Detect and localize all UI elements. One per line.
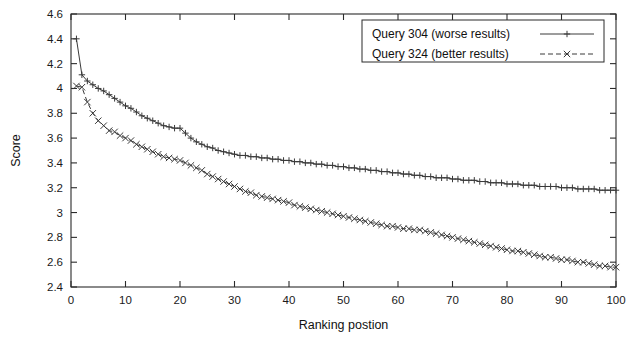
legend-label-1: Query 304 (worse results) — [372, 27, 510, 41]
data-point-marker — [422, 173, 428, 179]
data-point-marker — [542, 183, 548, 189]
x-tick-label: 0 — [68, 294, 74, 306]
data-point-marker — [144, 115, 150, 121]
data-point-marker — [329, 211, 335, 217]
data-point-marker — [302, 160, 308, 166]
data-point-marker — [591, 186, 597, 192]
y-tick-label: 2.6 — [47, 256, 63, 268]
chart-series — [73, 36, 619, 271]
data-point-marker — [210, 173, 216, 179]
data-point-marker — [231, 151, 237, 157]
x-axis-label: Ranking postion — [299, 318, 389, 332]
data-point-marker — [596, 263, 602, 269]
y-tick-label: 4 — [57, 82, 64, 94]
data-point-marker — [193, 165, 199, 171]
data-point-marker — [139, 144, 145, 150]
data-point-marker — [553, 183, 559, 189]
data-point-marker — [204, 144, 210, 150]
data-point-marker — [155, 151, 161, 157]
data-point-marker — [504, 181, 510, 187]
y-tick-label: 4.6 — [47, 8, 63, 20]
data-point-marker — [428, 173, 434, 179]
data-point-marker — [477, 178, 483, 184]
data-point-marker — [101, 88, 107, 94]
data-point-marker — [259, 155, 265, 161]
x-tick-label: 90 — [555, 294, 568, 306]
x-tick-label: 20 — [174, 294, 187, 306]
data-point-marker — [520, 182, 526, 188]
data-point-marker — [220, 178, 226, 184]
data-point-marker — [395, 170, 401, 176]
data-point-marker — [122, 135, 128, 141]
data-point-marker — [275, 156, 281, 162]
data-point-marker — [487, 180, 493, 186]
data-point-marker — [460, 177, 466, 183]
data-point-marker — [471, 177, 477, 183]
data-point-marker — [133, 141, 139, 147]
data-point-marker — [226, 150, 232, 156]
data-point-marker — [591, 261, 597, 267]
y-tick-label: 2.4 — [47, 281, 64, 293]
data-point-marker — [188, 162, 194, 168]
data-point-marker — [564, 31, 570, 37]
data-point-marker — [400, 171, 406, 177]
y-tick-label: 3 — [57, 207, 63, 219]
x-tick-label: 80 — [501, 294, 514, 306]
x-tick-label: 50 — [337, 294, 350, 306]
data-point-marker — [182, 160, 188, 166]
data-point-marker — [596, 187, 602, 193]
data-point-marker — [291, 158, 297, 164]
data-point-marker — [438, 175, 444, 181]
data-point-marker — [111, 129, 117, 135]
data-point-marker — [373, 167, 379, 173]
data-point-marker — [90, 110, 96, 116]
y-tick-label: 2.8 — [47, 231, 63, 243]
data-point-marker — [150, 149, 156, 155]
data-point-marker — [226, 181, 232, 187]
data-point-marker — [319, 161, 325, 167]
data-point-marker — [569, 185, 575, 191]
x-tick-label: 70 — [446, 294, 459, 306]
data-point-marker — [237, 152, 243, 158]
data-point-marker — [449, 176, 455, 182]
data-point-marker — [417, 172, 423, 178]
data-point-marker — [537, 183, 543, 189]
data-point-marker — [602, 187, 608, 193]
data-point-marker — [90, 82, 96, 88]
data-point-marker — [455, 176, 461, 182]
y-tick-label: 3.6 — [47, 132, 63, 144]
y-axis-label: Score — [9, 134, 23, 167]
chart-axes: 2.42.62.833.23.43.63.844.24.44.601020304… — [47, 8, 626, 306]
data-point-marker — [460, 237, 466, 243]
data-point-marker — [106, 127, 112, 133]
data-point-marker — [117, 132, 123, 138]
data-point-marker — [117, 99, 123, 105]
data-point-marker — [242, 152, 248, 158]
y-tick-label: 4.4 — [47, 33, 64, 45]
data-point-marker — [253, 154, 259, 160]
data-point-marker — [171, 156, 177, 162]
data-point-marker — [215, 176, 221, 182]
data-point-marker — [73, 36, 79, 42]
data-point-marker — [575, 186, 581, 192]
data-point-marker — [106, 91, 112, 97]
data-point-marker — [493, 180, 499, 186]
data-point-marker — [586, 186, 592, 192]
data-point-marker — [389, 170, 395, 176]
x-tick-label: 100 — [606, 294, 625, 306]
data-point-marker — [384, 168, 390, 174]
data-point-marker — [498, 180, 504, 186]
data-point-marker — [275, 197, 281, 203]
data-point-marker — [248, 154, 254, 160]
data-point-marker — [444, 175, 450, 181]
data-point-marker — [155, 120, 161, 126]
data-point-marker — [340, 163, 346, 169]
data-point-marker — [389, 223, 395, 229]
line-chart: 2.42.62.833.23.43.63.844.24.44.601020304… — [0, 0, 631, 338]
data-point-marker — [411, 172, 417, 178]
data-point-marker — [220, 149, 226, 155]
chart-container: 2.42.62.833.23.43.63.844.24.44.601020304… — [0, 0, 631, 338]
data-point-marker — [269, 156, 275, 162]
legend-label-2: Query 324 (better results) — [372, 47, 509, 61]
data-point-marker — [509, 181, 515, 187]
